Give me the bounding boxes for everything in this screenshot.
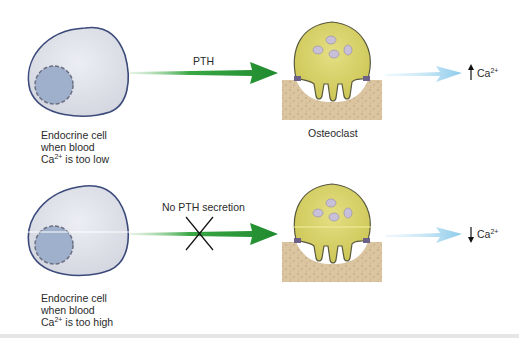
calcium-arrow-bottom bbox=[385, 227, 462, 243]
endocrine-label-top: Endocrine cell when blood Ca2+ is too lo… bbox=[41, 129, 109, 165]
osteoclast-top bbox=[282, 22, 382, 120]
osteoclast-label: Osteoclast bbox=[308, 127, 358, 139]
osteoclast-bottom bbox=[282, 184, 382, 282]
no-pth-label: No PTH secretion bbox=[162, 201, 245, 213]
nucleus-icon bbox=[35, 66, 73, 104]
pth-label: PTH bbox=[193, 55, 214, 67]
endocrine-cell-top bbox=[28, 27, 128, 116]
calcium-result-bottom: Ca2+ bbox=[477, 228, 498, 240]
endocrine-label-bottom: Endocrine cell when blood Ca2+ is too hi… bbox=[41, 292, 113, 328]
bottom-divider bbox=[0, 334, 519, 338]
down-arrow-icon bbox=[468, 227, 474, 243]
up-arrow-icon bbox=[468, 64, 474, 80]
diagram-canvas bbox=[0, 0, 519, 338]
calcium-result-top: Ca2+ bbox=[477, 67, 498, 79]
calcium-arrow-top bbox=[385, 66, 462, 82]
pth-arrow-bottom bbox=[130, 223, 278, 245]
endocrine-cell-bottom bbox=[22, 186, 132, 276]
